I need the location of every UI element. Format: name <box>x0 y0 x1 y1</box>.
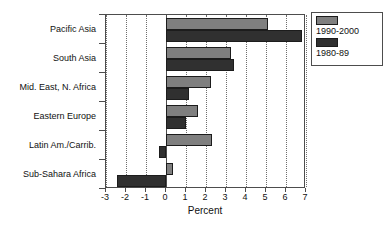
x-axis-label-10: 7 <box>295 192 315 202</box>
y-axis-label-3: Eastern Europe <box>33 111 96 121</box>
x-axis-label-1: -2 <box>115 192 135 202</box>
plot-area <box>105 14 305 188</box>
bar-1-4 <box>159 146 166 158</box>
legend-label-0: 1990-2000 <box>316 26 378 37</box>
x-axis-label-4: 1 <box>175 192 195 202</box>
bar-0-0 <box>166 18 268 30</box>
gridline <box>306 15 307 187</box>
bar-0-3 <box>166 105 198 117</box>
x-axis-label-7: 4 <box>235 192 255 202</box>
bar-1-5 <box>117 175 166 187</box>
bar-1-1 <box>166 59 234 71</box>
x-axis-label-5: 2 <box>195 192 215 202</box>
x-axis-label-2: -1 <box>135 192 155 202</box>
x-axis-label-0: -3 <box>95 192 115 202</box>
legend-item-1: 1980-89 <box>316 38 378 59</box>
x-axis-label-9: 6 <box>275 192 295 202</box>
bar-chart: Pacific AsiaSouth AsiaMid. East, N. Afri… <box>0 0 387 228</box>
x-axis-title: Percent <box>105 205 305 216</box>
y-tick <box>99 130 105 131</box>
x-axis-label-8: 5 <box>255 192 275 202</box>
x-axis-label-3: 0 <box>155 192 175 202</box>
y-axis-label-2: Mid. East, N. Africa <box>19 82 96 92</box>
y-axis-label-1: South Asia <box>53 53 96 63</box>
gridline <box>126 15 127 187</box>
bar-0-1 <box>166 47 231 59</box>
y-tick <box>99 14 105 15</box>
bar-0-4 <box>166 134 212 146</box>
y-tick <box>99 101 105 102</box>
bar-1-2 <box>166 88 189 100</box>
y-axis-label-0: Pacific Asia <box>50 24 96 34</box>
y-tick <box>99 159 105 160</box>
legend-swatch-icon-0 <box>316 16 338 25</box>
bar-1-0 <box>166 30 302 42</box>
y-axis-label-5: Sub-Sahara Africa <box>23 169 96 179</box>
legend-label-1: 1980-89 <box>316 48 378 59</box>
gridline <box>146 15 147 187</box>
bar-0-2 <box>166 76 211 88</box>
x-axis-label-6: 3 <box>215 192 235 202</box>
legend-swatch-icon-1 <box>316 38 338 47</box>
y-tick <box>99 72 105 73</box>
y-axis-label-4: Latin Am./Carrib. <box>29 140 96 150</box>
gridline <box>106 15 107 187</box>
legend: 1990-2000 1980-89 <box>311 12 383 66</box>
bar-0-5 <box>166 163 173 175</box>
bar-1-3 <box>166 117 186 129</box>
y-tick <box>99 43 105 44</box>
legend-item-0: 1990-2000 <box>316 16 378 37</box>
